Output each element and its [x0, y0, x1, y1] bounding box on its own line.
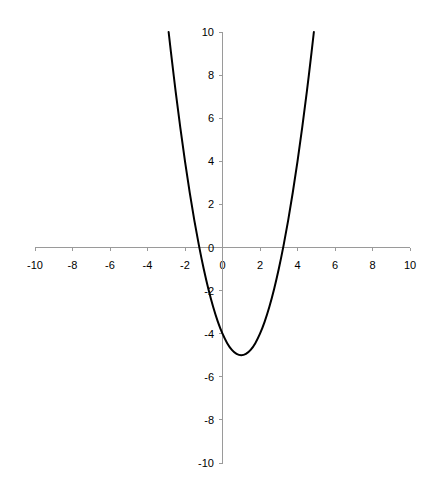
x-tick-label: 10: [404, 259, 416, 271]
y-tick-label: -6: [204, 371, 214, 383]
x-tick-label: -2: [180, 259, 190, 271]
y-tick-label: 4: [208, 155, 214, 167]
x-tick-label: -8: [68, 259, 78, 271]
y-tick-label: 6: [208, 112, 214, 124]
y-tick-label: -8: [204, 414, 214, 426]
y-tick-label: -10: [198, 457, 214, 469]
x-tick-label: 4: [294, 259, 300, 271]
parabola-chart: -10-8-6-4-20246810 1086420-2-4-6-8-10: [0, 0, 438, 500]
x-tick-label: 2: [257, 259, 263, 271]
x-tick-label: -6: [105, 259, 115, 271]
x-tick-label: -4: [143, 259, 153, 271]
y-tick-label: 2: [208, 198, 214, 210]
y-tick-label: -4: [204, 328, 214, 340]
x-tick-label: 6: [332, 259, 338, 271]
x-tick-label: 8: [369, 259, 375, 271]
y-tick-label: 8: [208, 69, 214, 81]
x-tick-label: -10: [27, 259, 43, 271]
y-tick-label: 10: [202, 26, 214, 38]
y-tick-label: 0: [208, 242, 214, 254]
